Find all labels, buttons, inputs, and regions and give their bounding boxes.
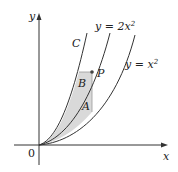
- region-b-label: B: [77, 77, 86, 90]
- curve-y-2x2-label-text: y = 2x: [94, 20, 131, 33]
- curve-y-x2-label-exp: 2: [153, 58, 159, 66]
- x-axis-label: x: [163, 150, 170, 163]
- x-axis-arrow-icon: [161, 143, 168, 148]
- origin-label: 0: [28, 147, 35, 160]
- y-axis-label: y: [28, 10, 36, 23]
- curve-y-x2-label-text: y = x: [124, 58, 154, 71]
- region-a-label: A: [81, 100, 90, 113]
- diagram-canvas: y x 0 C y = 2x2 y = x2 P B A: [0, 0, 178, 172]
- point-p-marker: [90, 70, 94, 74]
- y-axis-arrow-icon: [37, 13, 42, 20]
- curve-c-label: C: [72, 37, 81, 50]
- point-p-label: P: [96, 67, 105, 80]
- curve-y-2x2-label: y = 2x2: [94, 20, 136, 33]
- curve-y-x2-label: y = x2: [124, 58, 159, 71]
- curve-y-2x2-label-exp: 2: [130, 20, 136, 28]
